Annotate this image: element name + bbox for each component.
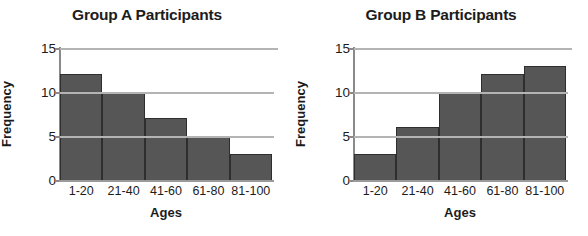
y-axis-tick-labels: 051015 [14, 48, 56, 180]
bar-slot [396, 48, 438, 180]
bar-slot [60, 48, 102, 180]
y-axis-tick-label: 0 [20, 173, 56, 188]
x-axis-tick-label: 81-100 [524, 184, 566, 198]
y-axis-tick-mark [55, 48, 60, 50]
bar[interactable] [524, 66, 566, 180]
chart-panel-group-a: Group A Participants Frequency 051015 1-… [0, 0, 294, 236]
y-axis-tick-mark [349, 136, 354, 138]
y-axis-tick-label: 10 [314, 85, 350, 100]
y-axis-tick-labels: 051015 [308, 48, 350, 180]
x-axis-tick-label: 21-40 [102, 184, 144, 198]
y-axis-title: Frequency [293, 81, 308, 147]
gridline [354, 92, 568, 94]
x-axis-tick-labels: 1-2021-4041-6061-8081-100 [60, 184, 272, 198]
y-axis-tick-label: 15 [314, 41, 350, 56]
bar-slot [102, 48, 144, 180]
y-axis-tick-mark [349, 48, 354, 50]
x-axis-tick-label: 1-20 [60, 184, 102, 198]
y-axis-tick-mark [349, 92, 354, 94]
x-axis-line [353, 180, 568, 182]
plot-area [60, 48, 272, 180]
x-axis-tick-label: 61-80 [481, 184, 523, 198]
gridline [60, 92, 274, 94]
bar[interactable] [354, 154, 396, 180]
gridline [60, 48, 278, 50]
bar[interactable] [481, 74, 523, 180]
y-axis-tick-mark [55, 136, 60, 138]
x-axis-tick-label: 61-80 [187, 184, 229, 198]
y-axis-tick-mark [55, 92, 60, 94]
x-axis-title: Ages [60, 205, 272, 220]
y-axis-title: Frequency [0, 81, 14, 147]
gridline [60, 136, 274, 138]
bar-slot [187, 48, 229, 180]
bar[interactable] [230, 154, 272, 180]
y-axis-tick-label: 5 [314, 129, 350, 144]
bar[interactable] [145, 118, 187, 180]
charts-row: Group A Participants Frequency 051015 1-… [0, 0, 588, 236]
chart-title: Group B Participants [294, 6, 588, 24]
x-axis-tick-label: 81-100 [230, 184, 272, 198]
bar[interactable] [60, 74, 102, 180]
x-axis-tick-label: 1-20 [354, 184, 396, 198]
y-axis-tick-label: 5 [20, 129, 56, 144]
x-axis-tick-label: 41-60 [145, 184, 187, 198]
y-axis-tick-label: 0 [314, 173, 350, 188]
bar-series [60, 48, 272, 180]
bar-slot [439, 48, 481, 180]
gridline [354, 48, 572, 50]
bar-slot [145, 48, 187, 180]
bar-slot [481, 48, 523, 180]
bar-slot [230, 48, 272, 180]
plot-area [354, 48, 566, 180]
bar[interactable] [187, 136, 229, 180]
bar-series [354, 48, 566, 180]
bar-slot [354, 48, 396, 180]
x-axis-line [59, 180, 274, 182]
y-axis-tick-label: 10 [20, 85, 56, 100]
y-axis-tick-label: 15 [20, 41, 56, 56]
x-axis-tick-label: 41-60 [439, 184, 481, 198]
x-axis-tick-labels: 1-2021-4041-6061-8081-100 [354, 184, 566, 198]
x-axis-tick-label: 21-40 [396, 184, 438, 198]
bar-slot [524, 48, 566, 180]
chart-panel-group-b: Group B Participants Frequency 051015 1-… [294, 0, 588, 236]
gridline [354, 136, 568, 138]
x-axis-title: Ages [354, 205, 566, 220]
chart-title: Group A Participants [0, 6, 294, 24]
